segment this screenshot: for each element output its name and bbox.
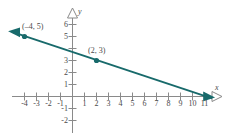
y-axis-label: y (78, 7, 82, 16)
x-tick-label: 11 (197, 99, 212, 108)
y-tick-label: -2 (53, 116, 68, 125)
x-tick-label: 8 (163, 99, 174, 108)
y-tick-label: 2 (58, 68, 68, 77)
x-tick-label: 6 (139, 99, 150, 108)
x-axis-arrowhead-icon (212, 92, 222, 102)
data-point-marker (22, 34, 27, 39)
x-tick-label: 2 (91, 99, 102, 108)
y-tick-label: 1 (58, 80, 68, 89)
x-axis-label: x (215, 83, 219, 92)
x-tick-label: 4 (115, 99, 126, 108)
y-tick-label: 5 (58, 32, 68, 41)
point-label-a: (–4, 5) (22, 22, 43, 31)
x-tick-label: 7 (151, 99, 162, 108)
data-point-marker (94, 58, 99, 63)
x-tick-label: 5 (127, 99, 138, 108)
y-tick-label: 6 (58, 20, 68, 29)
y-axis-arrowhead-icon (68, 8, 78, 18)
plotted-line (12, 32, 212, 99)
graph-figure: -4 -3 -2 -1 1 2 3 4 5 6 7 8 9 10 11 6 5 … (0, 0, 233, 137)
point-label-b: (2, 3) (88, 46, 105, 55)
y-tick-label: -1 (53, 104, 68, 113)
y-tick-label: 3 (58, 56, 68, 65)
x-tick-label: 1 (79, 99, 90, 108)
x-tick-label: 3 (103, 99, 114, 108)
coordinate-plane-svg (0, 0, 233, 137)
